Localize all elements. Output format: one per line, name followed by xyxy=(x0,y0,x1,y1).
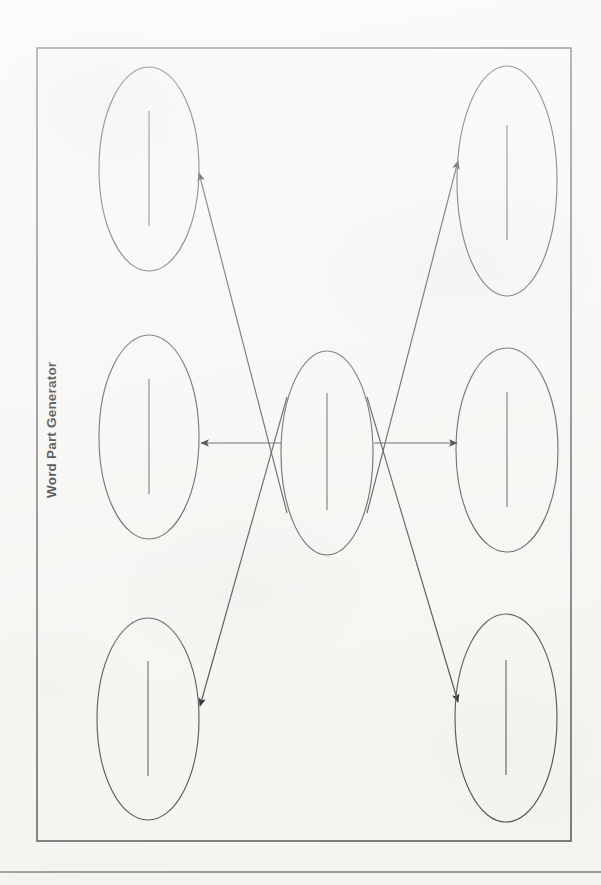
worksheet-border xyxy=(37,48,571,841)
bubble-middle-right[interactable] xyxy=(456,348,558,552)
bubble-bottom-left[interactable] xyxy=(97,618,199,820)
arrow-center-to-top-right xyxy=(367,161,458,513)
bubble-top-left[interactable] xyxy=(99,67,199,271)
center-bubble[interactable] xyxy=(281,351,373,555)
bubble-layer xyxy=(97,66,558,822)
bubble-top-right[interactable] xyxy=(457,66,557,296)
arrow-center-to-top-left xyxy=(199,173,287,513)
bubble-middle-left[interactable] xyxy=(99,335,199,539)
connector-layer xyxy=(199,161,458,706)
worksheet-canvas xyxy=(0,0,601,885)
bubble-bottom-right[interactable] xyxy=(455,614,557,822)
